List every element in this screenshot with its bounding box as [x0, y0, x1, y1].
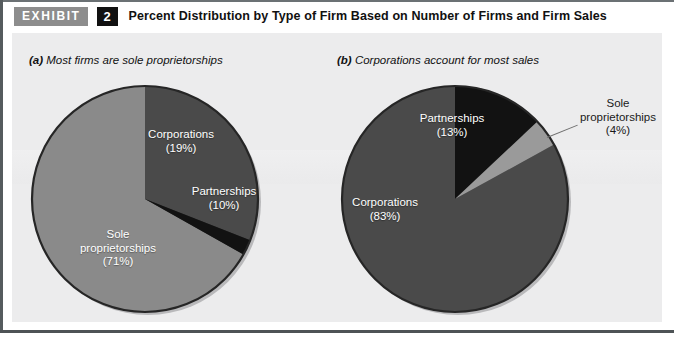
pie-a-label-sole-line2: proprietorships	[48, 242, 188, 256]
exhibit-number: 2	[97, 7, 118, 26]
frame-bottom-rule	[0, 330, 674, 333]
pie-a-label-corporations: Corporations (19%)	[133, 128, 229, 155]
pie-b-callout-sole-line2: proprietorships	[566, 111, 670, 125]
caption-panel-a: (a) Most firms are sole proprietorships	[29, 54, 223, 66]
pie-b-label-partnerships: Partnerships (13%)	[404, 112, 500, 139]
pie-a-label-sole-value: (71%)	[48, 255, 188, 269]
caption-a-letter: (a)	[29, 54, 43, 66]
pie-b-label-partnerships-name: Partnerships	[404, 112, 500, 126]
pie-b-label-corporations-value: (83%)	[333, 210, 437, 224]
pie-b-callout-sole-value: (4%)	[566, 124, 670, 138]
pie-b-label-partnerships-value: (13%)	[404, 126, 500, 140]
exhibit-figure: EXHIBIT 2 Percent Distribution by Type o…	[0, 0, 674, 351]
pie-a-label-sole-line1: Sole	[48, 228, 188, 242]
frame-left-rule	[0, 0, 3, 330]
pie-a-label-partnerships: Partnerships (10%)	[176, 185, 272, 212]
exhibit-header: EXHIBIT 2 Percent Distribution by Type o…	[3, 2, 674, 30]
pie-a-label-sole-proprietorships: Sole proprietorships (71%)	[48, 228, 188, 269]
pie-b-callout-sole-line1: Sole	[566, 97, 670, 111]
pie-a-label-partnerships-value: (10%)	[176, 199, 272, 213]
exhibit-badge: EXHIBIT	[14, 7, 88, 26]
pie-a-label-corporations-value: (19%)	[133, 142, 229, 156]
pie-a-label-partnerships-name: Partnerships	[176, 185, 272, 199]
caption-b-letter: (b)	[337, 54, 352, 66]
caption-b-text: Corporations account for most sales	[355, 54, 539, 66]
caption-a-text: Most firms are sole proprietorships	[46, 54, 222, 66]
pie-b-label-corporations: Corporations (83%)	[333, 196, 437, 223]
pie-b-label-corporations-name: Corporations	[333, 196, 437, 210]
pie-b-callout-sole-proprietorships: Sole proprietorships (4%)	[566, 97, 670, 138]
caption-panel-b: (b) Corporations account for most sales	[337, 54, 539, 66]
pie-a-label-corporations-name: Corporations	[133, 128, 229, 142]
exhibit-title: Percent Distribution by Type of Firm Bas…	[129, 9, 607, 23]
